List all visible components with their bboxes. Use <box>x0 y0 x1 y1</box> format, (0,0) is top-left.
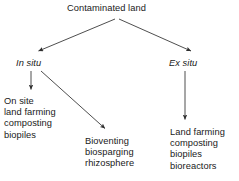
node-ex-situ: Ex situ <box>169 58 197 69</box>
node-land-farming-treatments: Land farming composting biopiles bioreac… <box>170 127 225 172</box>
edge-root-to-ex-situ <box>119 19 191 51</box>
edge-root-to-in-situ <box>39 19 116 51</box>
node-contaminated-land: Contaminated land <box>67 3 146 14</box>
node-bioventing-treatments: Bioventing biosparging rhizosphere <box>85 136 134 170</box>
node-on-site-treatments: On site land farming composting biopiles <box>4 96 56 141</box>
node-in-situ: In situ <box>16 58 41 69</box>
contaminated-land-diagram: Contaminated land In situ Ex situ On sit… <box>0 0 239 181</box>
